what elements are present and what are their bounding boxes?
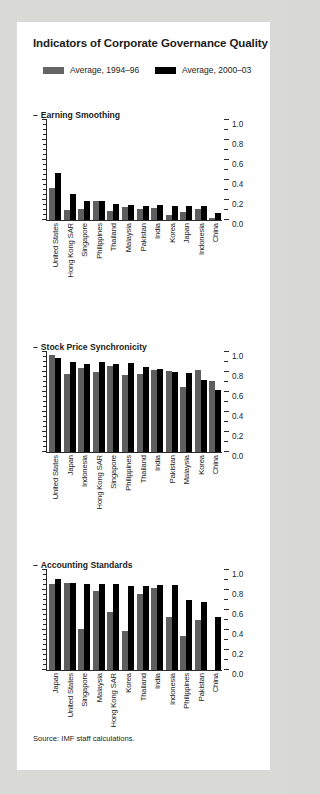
- bar-average-2000-03: [128, 205, 134, 220]
- bar-group: [49, 570, 64, 670]
- bar-group: [209, 352, 224, 452]
- x-axis-label: Indonesia: [168, 673, 177, 705]
- y-tick-mark: [42, 629, 47, 630]
- x-axis-label: Malaysia: [182, 455, 191, 484]
- bar-group: [78, 570, 93, 670]
- y-tick-mark: [43, 441, 47, 442]
- y-axis-tick: [224, 351, 229, 352]
- y-tick-mark: [43, 416, 47, 417]
- y-axis-minor-tick: [224, 381, 228, 382]
- plot-area-accounting-standards: [46, 570, 222, 671]
- bar-average-2000-03: [99, 362, 105, 452]
- bar-average-2000-03: [201, 380, 207, 452]
- bar-group: [107, 120, 122, 220]
- y-tick-mark: [43, 639, 47, 640]
- y-axis-tick: [224, 669, 229, 670]
- x-axis-label: Japan: [66, 455, 75, 475]
- x-axis-label: India: [153, 223, 162, 239]
- x-axis-label: China: [211, 455, 220, 474]
- x-axis-label: Korea: [124, 673, 133, 693]
- y-axis-minor-tick: [224, 639, 228, 640]
- x-axis-label: Hong Kong SAR: [109, 673, 118, 727]
- y-tick-mark: [43, 604, 47, 605]
- bar-group: [107, 570, 122, 670]
- y-tick-mark: [42, 119, 47, 120]
- y-axis-minor-tick: [224, 421, 228, 422]
- bar-group: [137, 120, 152, 220]
- bar-group: [151, 352, 166, 452]
- panel-title-dash: –: [33, 110, 38, 120]
- y-tick-mark: [43, 659, 47, 660]
- y-tick-mark: [43, 634, 47, 635]
- x-axis-label: Hong Kong SAR: [66, 223, 75, 277]
- source-note: Source: IMF staff calculations.: [33, 734, 135, 743]
- y-tick-mark: [43, 386, 47, 387]
- y-tick-mark: [43, 664, 47, 665]
- x-axis-label: Singapore: [80, 223, 89, 257]
- bar-average-2000-03: [186, 373, 192, 452]
- bar-average-2000-03: [113, 204, 119, 220]
- legend-label-2000-03: Average, 2000–03: [182, 65, 251, 75]
- bar-average-2000-03: [201, 206, 207, 220]
- bar-average-2000-03: [70, 583, 76, 670]
- y-axis-tick: [224, 411, 229, 412]
- chart-legend: Average, 1994–96 Average, 2000–03: [33, 63, 258, 77]
- y-tick-mark: [43, 426, 47, 427]
- y-tick-mark: [42, 411, 47, 412]
- x-axis-label: Singapore: [109, 455, 118, 489]
- y-axis-minor-tick: [224, 361, 228, 362]
- y-tick-mark: [43, 366, 47, 367]
- bar-group: [78, 352, 93, 452]
- legend-label-1994-96: Average, 1994–96: [70, 65, 139, 75]
- y-axis-earning-smoothing: 1.00.80.60.40.20.0: [224, 120, 258, 220]
- bar-group: [122, 352, 137, 452]
- y-tick-mark: [42, 431, 47, 432]
- bar-group: [137, 570, 152, 670]
- legend-item-2000-03: Average, 2000–03: [155, 63, 251, 77]
- x-axis-label: Korea: [168, 223, 177, 243]
- y-tick-mark: [43, 446, 47, 447]
- y-tick-mark: [43, 619, 47, 620]
- x-axis-label: Philippines: [182, 673, 191, 709]
- y-axis-minor-tick: [224, 441, 228, 442]
- y-tick-mark: [42, 351, 47, 352]
- y-tick-mark: [42, 391, 47, 392]
- y-axis-tick: [224, 431, 229, 432]
- bar-average-2000-03: [172, 372, 178, 452]
- bar-average-2000-03: [128, 363, 134, 452]
- x-axis-label: Pakistan: [168, 455, 177, 483]
- panel-title-accounting-standards: –Accounting Standards: [33, 560, 132, 570]
- x-axis-label: Malaysia: [124, 223, 133, 252]
- bar-group: [209, 570, 224, 670]
- page-title: Indicators of Corporate Governance Quali…: [33, 37, 268, 49]
- y-axis-tick: [224, 219, 229, 220]
- bar-average-2000-03: [157, 369, 163, 452]
- bar-average-2000-03: [55, 358, 61, 452]
- bar-group: [209, 120, 224, 220]
- x-axis-labels-stock-price-synchronicity: United StatesJapanIndonesiaHong Kong SAR…: [47, 455, 223, 517]
- y-tick-mark: [43, 169, 47, 170]
- y-tick-mark: [43, 584, 47, 585]
- y-axis-minor-tick: [224, 169, 228, 170]
- bar-group: [166, 570, 181, 670]
- bar-average-2000-03: [143, 367, 149, 452]
- bar-average-2000-03: [113, 584, 119, 670]
- bar-average-2000-03: [113, 364, 119, 452]
- y-axis-tick: [224, 391, 229, 392]
- y-axis-tick: [224, 159, 229, 160]
- x-axis-label: United States: [51, 223, 60, 267]
- x-axis-label: Japan: [51, 673, 60, 693]
- x-axis-label: Philippines: [95, 223, 104, 259]
- y-tick-mark: [42, 569, 47, 570]
- bar-average-2000-03: [157, 205, 163, 220]
- bar-average-2000-03: [70, 194, 76, 220]
- x-axis-label: Indonesia: [80, 455, 89, 487]
- bar-group: [93, 120, 108, 220]
- x-axis-label: Hong Kong SAR: [95, 455, 104, 509]
- x-axis-label: India: [153, 673, 162, 689]
- y-tick-mark: [43, 574, 47, 575]
- bar-average-2000-03: [215, 390, 221, 452]
- x-axis-label: Indonesia: [197, 223, 206, 255]
- y-axis-minor-tick: [224, 401, 228, 402]
- bar-group: [122, 120, 137, 220]
